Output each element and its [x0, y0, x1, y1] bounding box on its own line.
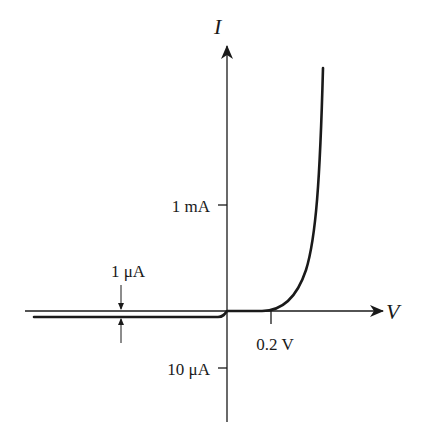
arrowhead-up-icon [118, 318, 124, 325]
label-0-2v: 0.2 V [256, 335, 294, 354]
diode-curve [34, 68, 323, 317]
i-axis-label: I [213, 14, 223, 39]
label-10ua: 10 μA [167, 360, 210, 379]
arrowhead-down-icon [118, 303, 124, 310]
label-1ma: 1 mA [172, 197, 211, 216]
label-1ua: 1 μA [111, 262, 146, 281]
v-axis-label: V [386, 299, 402, 324]
diode-iv-diagram: I V 1 mA 10 μA 0.2 V 1 μA [0, 0, 423, 439]
